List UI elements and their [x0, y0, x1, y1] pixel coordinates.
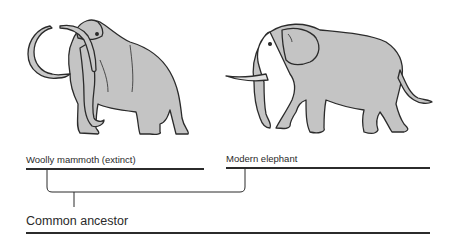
woolly-mammoth-illustration	[28, 20, 188, 134]
bracket-connector	[47, 168, 245, 192]
common-ancestor-label: Common ancestor	[26, 214, 128, 228]
evolution-diagram: Woolly mammoth (extinct) Modern elephant…	[0, 0, 450, 246]
modern-elephant-illustration	[226, 24, 432, 133]
woolly-mammoth-label: Woolly mammoth (extinct)	[26, 154, 136, 165]
modern-elephant-label: Modern elephant	[226, 153, 297, 164]
diagram-art	[0, 0, 450, 246]
